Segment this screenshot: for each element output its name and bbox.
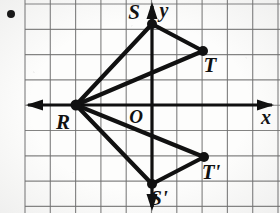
point-label-S-prime: S' [150, 186, 168, 210]
graph-figure: RSTS'T' xyO [0, 0, 280, 213]
y-axis-label: y [158, 0, 169, 22]
x-axis-label: x [260, 106, 271, 128]
point-label-S: S [128, 0, 140, 24]
point-label-R: R [55, 110, 70, 134]
point-label-T: T [204, 53, 218, 77]
origin-label: O [129, 106, 143, 127]
vertex-dot-S [147, 19, 157, 29]
point-label-T-prime: T' [202, 160, 221, 184]
vertex-dot-R [71, 100, 82, 111]
page-bullet-dot [7, 10, 15, 18]
coordinate-plane-svg: RSTS'T' xyO [0, 0, 280, 213]
bullet-dot [7, 10, 15, 18]
